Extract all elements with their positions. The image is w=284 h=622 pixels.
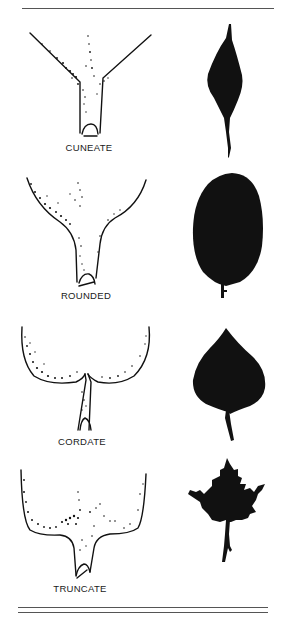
bottom-rule-upper xyxy=(18,607,268,608)
bottom-rule-lower xyxy=(18,612,268,613)
truncate-leaf-silhouette xyxy=(0,0,284,622)
